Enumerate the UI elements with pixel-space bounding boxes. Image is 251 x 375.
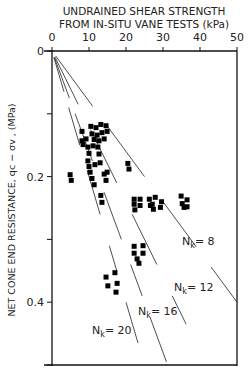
data-point bbox=[153, 195, 158, 200]
nk-label: Nk= 8 bbox=[182, 235, 215, 250]
data-point bbox=[105, 283, 110, 288]
data-point bbox=[138, 203, 143, 208]
data-point bbox=[88, 170, 93, 175]
data-point bbox=[112, 270, 117, 275]
x-tick-label: 50 bbox=[230, 31, 244, 44]
data-points bbox=[68, 122, 190, 295]
x-tick-label: 10 bbox=[82, 31, 96, 44]
data-point bbox=[99, 130, 104, 135]
data-point bbox=[98, 122, 103, 127]
data-point bbox=[185, 197, 190, 202]
y-axis-title: NET CONE END RESISTANCE, qc − σv , (MPa) bbox=[6, 103, 17, 316]
data-point bbox=[104, 275, 109, 280]
data-point bbox=[96, 138, 101, 143]
data-point bbox=[81, 142, 86, 147]
x-axis-ticks: 01020304050 bbox=[49, 31, 245, 51]
nk-line-segment bbox=[69, 108, 80, 146]
data-point bbox=[87, 164, 92, 169]
data-point bbox=[132, 202, 137, 207]
data-point bbox=[126, 167, 131, 172]
data-point bbox=[115, 281, 120, 286]
nk-label: Nk= 12 bbox=[174, 281, 214, 296]
nk-line-segment bbox=[108, 126, 145, 176]
data-point bbox=[91, 143, 96, 148]
data-point bbox=[105, 129, 110, 134]
data-point bbox=[85, 145, 90, 150]
data-point bbox=[95, 145, 100, 150]
data-point bbox=[132, 251, 137, 256]
nk-line-segment bbox=[211, 267, 237, 302]
x-axis-title-line1: UNDRAINED SHEAR STRENGTH bbox=[63, 5, 226, 17]
nk-line-segment bbox=[54, 57, 64, 92]
data-point bbox=[95, 133, 100, 138]
data-point bbox=[92, 137, 97, 142]
data-point bbox=[87, 151, 92, 156]
data-point bbox=[135, 256, 140, 261]
data-point bbox=[150, 202, 155, 207]
x-tick-label: 0 bbox=[49, 31, 56, 44]
data-point bbox=[89, 131, 94, 136]
data-point bbox=[132, 197, 137, 202]
data-point bbox=[85, 158, 90, 163]
data-point bbox=[68, 172, 73, 177]
data-point bbox=[96, 151, 101, 156]
nk-label: Nk= 20 bbox=[92, 324, 132, 339]
data-point bbox=[104, 178, 109, 183]
data-point bbox=[94, 125, 99, 130]
x-tick-label: 40 bbox=[193, 31, 207, 44]
data-point bbox=[99, 200, 104, 205]
data-point bbox=[141, 243, 146, 248]
data-point bbox=[98, 193, 103, 198]
x-tick-label: 30 bbox=[156, 31, 170, 44]
x-tick-label: 20 bbox=[119, 31, 133, 44]
chart: UNDRAINED SHEAR STRENGTH FROM IN-SITU VA… bbox=[0, 0, 251, 375]
data-point bbox=[88, 124, 93, 129]
data-point bbox=[141, 251, 146, 256]
data-point bbox=[114, 290, 119, 295]
data-point bbox=[69, 178, 74, 183]
nk-line-segment bbox=[109, 246, 116, 271]
data-point bbox=[89, 176, 94, 181]
data-point bbox=[147, 197, 152, 202]
data-point bbox=[92, 162, 97, 167]
nk-line-segment bbox=[131, 265, 143, 296]
data-point bbox=[151, 207, 156, 212]
nk-line-segment bbox=[54, 57, 69, 98]
nk-line-segment bbox=[150, 318, 166, 362]
data-point bbox=[125, 161, 130, 166]
data-point bbox=[185, 204, 190, 209]
y-tick-label: 0.4 bbox=[27, 296, 45, 309]
data-point bbox=[105, 170, 110, 175]
nk-line-segment bbox=[55, 57, 78, 104]
data-point bbox=[179, 194, 184, 199]
data-point bbox=[79, 129, 84, 134]
nk-line-segment bbox=[104, 192, 121, 239]
data-point bbox=[104, 123, 109, 128]
y-axis-ticks: 00.20.4 bbox=[27, 45, 53, 365]
data-point bbox=[132, 207, 137, 212]
data-point bbox=[102, 136, 107, 141]
data-point bbox=[132, 244, 137, 249]
nk-label: Nk= 16 bbox=[138, 305, 178, 320]
data-point bbox=[136, 261, 141, 266]
data-point bbox=[98, 160, 103, 165]
x-axis-title-line2: FROM IN-SITU VANE TESTS (kPa) bbox=[59, 18, 229, 30]
y-tick-label: 0.2 bbox=[27, 171, 45, 184]
data-point bbox=[158, 205, 163, 210]
y-tick-label: 0 bbox=[37, 45, 44, 58]
data-point bbox=[159, 199, 164, 204]
data-point bbox=[92, 182, 97, 187]
plot-frame bbox=[44, 51, 237, 366]
data-point bbox=[138, 197, 143, 202]
